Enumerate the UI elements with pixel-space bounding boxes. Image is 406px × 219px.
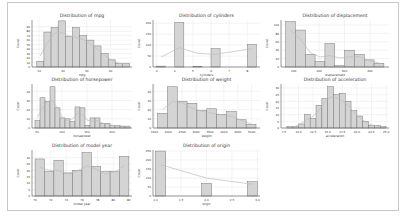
x-tick-label: 1500 xyxy=(151,130,158,134)
y-tick-label: 20 xyxy=(147,108,151,112)
subplot-title: Distribution of displacement xyxy=(302,13,367,18)
y-tick-label: 250 xyxy=(146,149,152,153)
histogram-bar xyxy=(211,49,220,67)
histogram-bar xyxy=(50,87,55,128)
y-tick-label: 30 xyxy=(26,99,30,103)
y-tick-label: 40 xyxy=(26,90,30,94)
x-axis-label: mpg xyxy=(79,73,86,77)
x-tick-label: 400 xyxy=(367,69,373,73)
histogram-bar xyxy=(207,109,217,128)
x-tick-label: 72 xyxy=(49,198,53,202)
x-axis-label: weight xyxy=(201,134,212,138)
histogram-bar xyxy=(351,111,357,128)
histogram-bar xyxy=(70,122,75,128)
subplot-title: Distribution of acceleration xyxy=(304,77,367,82)
histogram-bar xyxy=(90,118,95,128)
x-tick-label: 50 xyxy=(35,130,39,134)
histogram-bar xyxy=(80,108,85,128)
x-tick-label: 3 xyxy=(156,69,158,73)
histogram-grid: 010203040506070809010203040Distribution … xyxy=(0,0,406,219)
subplot-mpg: 010203040506070809010203040Distribution … xyxy=(16,13,132,77)
histogram-bar xyxy=(369,125,375,128)
x-tick-label: 12.5 xyxy=(310,130,316,134)
y-axis-label: Count xyxy=(137,38,141,48)
histogram-bar xyxy=(246,124,256,128)
y-tick-label: 0 xyxy=(277,65,279,69)
y-tick-label: 60 xyxy=(26,38,30,42)
histogram-bar xyxy=(247,44,256,67)
histogram-bar xyxy=(55,108,60,128)
x-axis-label: displacement xyxy=(325,73,346,77)
y-tick-label: 10 xyxy=(275,113,279,117)
y-tick-label: 25 xyxy=(26,162,30,166)
histogram-bar xyxy=(110,172,119,196)
histogram-bar xyxy=(45,101,50,128)
histogram-bar xyxy=(58,21,65,67)
y-tick-label: 100 xyxy=(146,176,152,180)
y-tick-label: 150 xyxy=(146,32,152,36)
x-tick-label: 200 xyxy=(316,69,322,73)
subplot-acceleration: 0510152025307.510.012.515.017.520.022.52… xyxy=(265,77,389,138)
histogram-bar xyxy=(35,121,40,128)
y-tick-label: 90 xyxy=(26,25,30,29)
y-tick-label: 200 xyxy=(146,158,152,162)
histogram-bar xyxy=(226,112,236,129)
subplot-weight: 0102030401500200025003000350040004500500… xyxy=(137,77,260,138)
histogram-bar xyxy=(85,125,90,128)
y-tick-label: 15 xyxy=(275,106,279,110)
y-tick-label: 20 xyxy=(26,108,30,112)
y-tick-label: 30 xyxy=(26,156,30,160)
x-tick-label: 22.5 xyxy=(368,130,374,134)
x-tick-label: 78 xyxy=(96,198,100,202)
x-tick-label: 7.5 xyxy=(282,130,287,134)
subplot-title: Distribution of model year xyxy=(52,143,112,148)
y-tick-label: 5 xyxy=(277,120,279,124)
y-tick-label: 150 xyxy=(146,167,152,171)
histogram-bar xyxy=(63,173,72,196)
y-tick-label: 10 xyxy=(147,117,151,121)
x-tick-label: 4500 xyxy=(234,130,241,134)
subplot-origin: 0501001502002501.01.52.02.53.0Distributi… xyxy=(137,143,260,206)
x-tick-label: 2500 xyxy=(179,130,186,134)
y-tick-label: 30 xyxy=(275,86,279,90)
y-tick-label: 80 xyxy=(275,32,279,36)
y-tick-label: 0 xyxy=(28,126,30,130)
y-tick-label: 80 xyxy=(26,29,30,33)
histogram-bar xyxy=(72,28,79,67)
y-tick-label: 10 xyxy=(26,181,30,185)
x-tick-label: 4 xyxy=(174,69,176,73)
histogram-bar xyxy=(305,54,315,67)
histogram-bar xyxy=(201,183,211,196)
histogram-bar xyxy=(100,123,105,128)
histogram-bar xyxy=(156,151,166,196)
y-tick-label: 100 xyxy=(146,43,152,47)
y-tick-label: 0 xyxy=(28,194,30,198)
x-tick-label: 20 xyxy=(61,69,65,73)
y-tick-label: 0 xyxy=(28,65,30,69)
y-tick-label: 20 xyxy=(26,56,30,60)
y-tick-label: 100 xyxy=(274,23,280,27)
histogram-bar xyxy=(345,50,355,67)
subplot-cylinders: 050100150200345678Distribution of cylind… xyxy=(137,13,260,77)
y-tick-label: 30 xyxy=(26,52,30,56)
x-tick-label: 80 xyxy=(111,198,115,202)
histogram-bar xyxy=(364,60,374,67)
x-tick-label: 8 xyxy=(246,69,248,73)
y-axis-label: Count xyxy=(16,38,20,48)
y-axis-label: Count xyxy=(137,101,141,111)
histogram-bar xyxy=(286,22,296,67)
y-tick-label: 30 xyxy=(147,99,151,103)
histogram-bar xyxy=(37,61,44,67)
histogram-bar xyxy=(44,32,51,67)
histogram-bar xyxy=(73,170,82,196)
x-tick-label: 10.0 xyxy=(295,130,301,134)
histogram-bar xyxy=(334,95,340,128)
histogram-bar xyxy=(108,60,115,67)
histogram-bar xyxy=(316,105,322,128)
y-tick-label: 40 xyxy=(147,90,151,94)
histogram-bar xyxy=(304,115,310,128)
x-tick-label: 40 xyxy=(109,69,113,73)
x-tick-label: 20.0 xyxy=(354,130,360,134)
x-tick-label: 2000 xyxy=(165,130,172,134)
x-tick-label: 10 xyxy=(37,69,41,73)
